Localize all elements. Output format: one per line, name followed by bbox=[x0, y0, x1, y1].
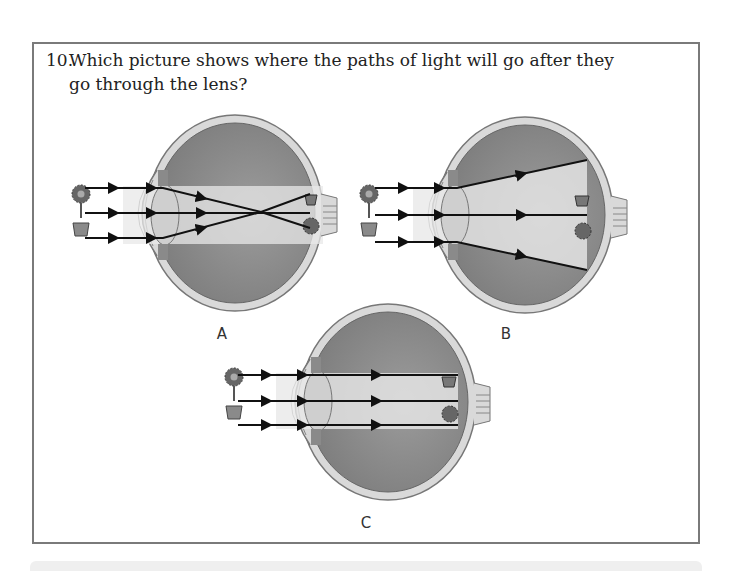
bottom-panel-edge bbox=[30, 561, 702, 571]
option-label-c[interactable]: C bbox=[351, 514, 381, 532]
eye-diagram-c[interactable] bbox=[218, 297, 493, 507]
question-text: Which picture shows where the paths of l… bbox=[69, 48, 629, 96]
flower-pot-icon bbox=[72, 185, 90, 236]
option-label-b[interactable]: B bbox=[491, 325, 521, 343]
eye-diagram-b[interactable] bbox=[355, 110, 630, 320]
flower-pot-icon bbox=[360, 185, 378, 236]
eye-diagram-a[interactable] bbox=[65, 108, 345, 318]
